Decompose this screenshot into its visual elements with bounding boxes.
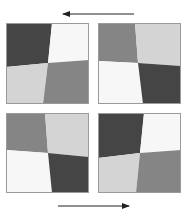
quadrant-top-left: [6, 113, 48, 153]
panels-layer: [6, 23, 181, 193]
quadrant-bottom-left: [98, 61, 143, 104]
four-panel-figure: [0, 0, 191, 221]
quadrant-bottom-right: [138, 63, 181, 104]
quadrant-top-right: [45, 113, 89, 157]
quadrant-bottom-left: [6, 63, 48, 104]
quadrant-bottom-left: [98, 153, 140, 193]
panel-top-left: [6, 23, 89, 104]
panel-bottom-left: [6, 113, 89, 193]
quadrant-bottom-right: [136, 150, 181, 193]
quadrant-bottom-right: [43, 60, 89, 104]
quadrant-bottom-left: [6, 150, 52, 193]
quadrant-top-right: [140, 113, 181, 153]
quadrant-top-left: [98, 113, 144, 158]
quadrant-bottom-right: [48, 153, 89, 193]
panel-top-right: [98, 23, 181, 104]
quadrant-top-right: [135, 23, 181, 66]
quadrant-top-left: [98, 23, 138, 63]
quadrant-top-right: [48, 23, 89, 63]
panel-bottom-right: [98, 113, 181, 193]
quadrant-top-left: [6, 23, 52, 67]
